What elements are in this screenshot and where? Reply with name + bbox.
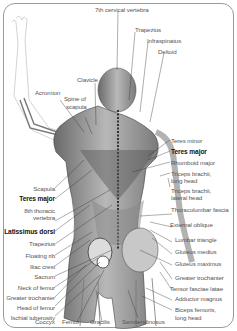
label-acromion: Acromion xyxy=(35,89,60,96)
label-clavicle: Clavicle xyxy=(77,76,98,83)
label-greater-trochanter-left: Greater trochanter xyxy=(6,294,55,301)
label-coccyx: Coccyx xyxy=(35,318,55,325)
label-teres-major-left: Teres major xyxy=(19,195,55,202)
label-scapula: Scapula xyxy=(33,185,55,192)
label-deltoid: Deltoid xyxy=(158,48,177,55)
label-sacrum: Sacrum xyxy=(34,273,55,280)
label-spine-of-scapula-2: scapula xyxy=(66,103,87,110)
label-tensor-fasciae-latae: Tensor fasciae latae xyxy=(170,285,223,292)
label-thoracolumbar-fascia: Thoracolumbar fascia xyxy=(171,206,229,213)
label-teres-major-right: Teres major xyxy=(171,148,207,155)
label-greater-trochanter-right: Greater trochanter xyxy=(175,274,224,281)
label-biceps-femoris-1: Biceps femoris, xyxy=(175,306,216,313)
label-gluteus-medius: Gluteus medius xyxy=(175,248,217,255)
label-triceps-long-1: Triceps brachii, xyxy=(171,170,211,177)
label-spine-of-scapula-1: Spine of xyxy=(64,95,86,102)
label-semitendinosus: Semitendinosus xyxy=(122,318,165,325)
label-femur: Femur xyxy=(62,318,79,325)
label-triceps-lateral-2: lateral head xyxy=(171,194,202,201)
label-infraspinatus: Infraspinatus xyxy=(147,37,181,44)
label-triceps-lateral-1: Triceps brachii, xyxy=(171,187,211,194)
label-floating-rib: Floating rib xyxy=(26,252,55,259)
label-8th-thoracic-2: vertebra xyxy=(33,214,55,221)
label-gracilis: Gracilis xyxy=(90,318,110,325)
label-external-oblique: External oblique xyxy=(170,221,213,228)
label-neck-of-femur: Neck of femur xyxy=(18,284,55,291)
label-adductor-magnus: Adductor magnus xyxy=(175,295,222,302)
label-8th-thoracic-1: 8th thoracic xyxy=(24,207,55,214)
head xyxy=(98,68,136,112)
label-latissimus-dorsi: Latissimus dorsi xyxy=(4,228,55,235)
label-biceps-femoris-2: long head xyxy=(175,314,201,321)
label-gluteus-maximus: Gluteus maximus xyxy=(175,260,221,267)
label-triceps-long-2: long head xyxy=(171,177,197,184)
label-rhomboid-major: Rhomboid major xyxy=(171,159,215,166)
label-7th-cervical-vertebra: 7th cervical vertebra xyxy=(95,6,149,13)
label-trapezius-left: Trapezius xyxy=(29,240,55,247)
label-teres-minor: Teres minor xyxy=(171,137,202,144)
label-trapezius-top: Trapezius xyxy=(135,26,161,33)
label-head-of-femur: Head of femur xyxy=(17,304,55,311)
label-iliac-crest: Iliac crest xyxy=(30,263,55,270)
label-lumbar-triangle: Lumbar triangle xyxy=(175,236,217,243)
